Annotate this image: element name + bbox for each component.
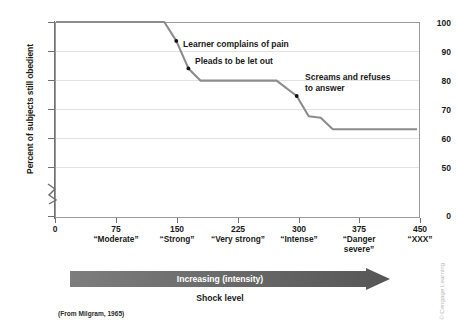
annotation-learner-complains: Learner complains of pain xyxy=(183,39,289,50)
marker-pleads-to-be-let-out xyxy=(187,67,191,71)
annotation-pleads-to-be-let-out: Pleads to be let out xyxy=(195,56,273,67)
annotation-screams-and-refuses: Screams and refuses to answer xyxy=(305,72,391,93)
intensity-arrow-label: Increasing (intensity) xyxy=(70,274,370,284)
marker-screams-and-refuses xyxy=(295,94,299,98)
x-axis-title: Shock level xyxy=(70,293,370,303)
annotation-screams-line1: Screams and refuses xyxy=(305,72,391,82)
copyright-credit: © Cengage Learning xyxy=(438,247,445,334)
annotation-screams-line2: to answer xyxy=(305,83,345,93)
marker-learner-complains xyxy=(174,39,178,43)
source-note: (From Milgram, 1965) xyxy=(58,310,124,317)
